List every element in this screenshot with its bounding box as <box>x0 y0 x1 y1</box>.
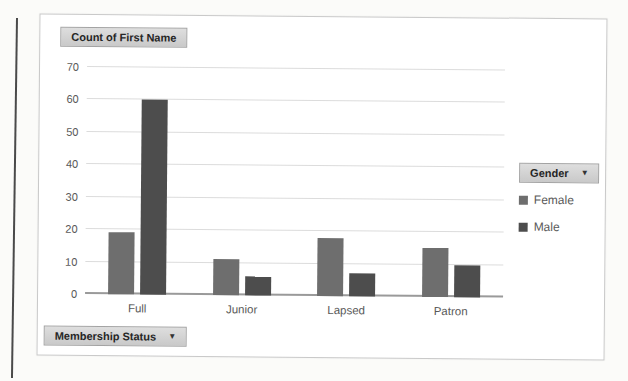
bar-female-full[interactable] <box>108 233 135 295</box>
value-field-label: Count of First Name <box>71 31 176 44</box>
y-tick-label: 50 <box>42 124 78 138</box>
x-category-label: Junior <box>189 303 294 316</box>
y-tick-label: 70 <box>43 60 79 74</box>
y-tick-label: 0 <box>41 287 77 301</box>
legend-entry-male[interactable]: Male <box>519 220 574 234</box>
page-binding-edge <box>11 18 18 378</box>
gridline <box>87 66 505 71</box>
bar-male-lapsed[interactable] <box>349 274 375 297</box>
y-tick-label: 20 <box>42 222 78 236</box>
dropdown-arrow-icon: ▼ <box>168 333 176 341</box>
plot-area: 010203040506070FullJuniorLapsedPatron <box>85 67 505 298</box>
axis-field-button[interactable]: Membership Status ▼ <box>44 326 188 347</box>
legend: FemaleMale <box>518 193 573 247</box>
x-category-label: Patron <box>398 305 503 318</box>
pivot-chart: Count of First Name 010203040506070FullJ… <box>37 14 608 361</box>
y-tick-label: 60 <box>43 92 79 106</box>
axis-field-label: Membership Status <box>55 330 157 343</box>
legend-entry-female[interactable]: Female <box>519 193 574 207</box>
y-tick-label: 30 <box>42 189 78 203</box>
x-category-label: Lapsed <box>294 304 399 317</box>
value-field-button[interactable]: Count of First Name <box>60 27 187 48</box>
bar-female-patron[interactable] <box>422 248 448 297</box>
bar-male-patron[interactable] <box>454 265 480 298</box>
legend-label: Female <box>534 193 574 207</box>
legend-label: Male <box>534 220 560 234</box>
dropdown-arrow-icon: ▼ <box>581 169 589 177</box>
bar-male-full[interactable] <box>140 100 168 295</box>
legend-field-button[interactable]: Gender ▼ <box>519 163 600 184</box>
bar-female-junior[interactable] <box>213 259 239 295</box>
y-tick-label: 10 <box>41 254 77 268</box>
x-category-label: Full <box>85 302 190 315</box>
legend-marker-icon <box>519 222 528 231</box>
legend-field-label: Gender <box>530 167 569 179</box>
bar-female-lapsed[interactable] <box>317 238 344 297</box>
y-tick-label: 40 <box>42 157 78 171</box>
bar-male-junior[interactable] <box>245 276 271 296</box>
legend-marker-icon <box>519 195 528 204</box>
